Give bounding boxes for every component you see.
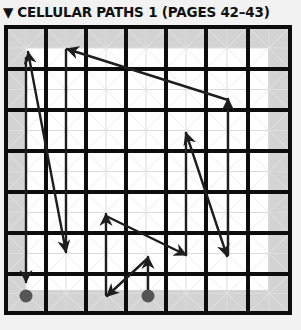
start-dot — [142, 290, 155, 303]
cellular-paths-grid — [0, 0, 301, 330]
start-dot — [20, 290, 33, 303]
